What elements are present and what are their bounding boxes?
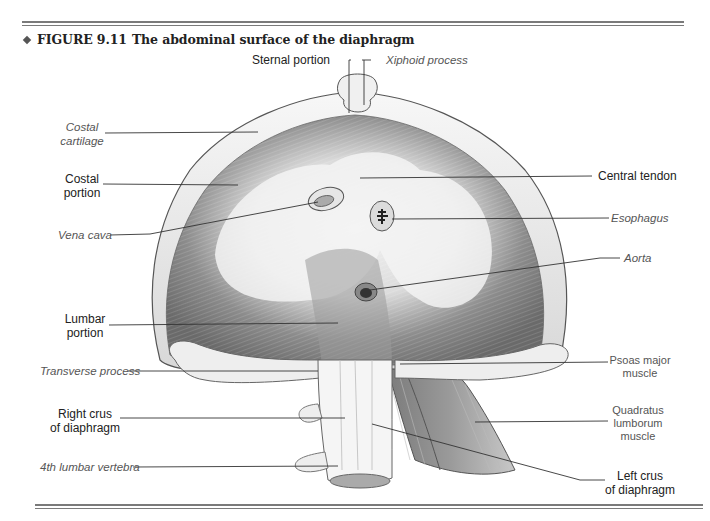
vertebral-body-cut [330, 474, 390, 488]
label-line: cartilage [60, 134, 104, 148]
label-line: portion [62, 326, 108, 340]
esophagus-opening [370, 201, 394, 231]
label-costal-cartilage: Costal cartilage [60, 120, 104, 148]
diaphragm-illustration [0, 0, 710, 521]
label-line: Costal [60, 120, 104, 134]
label-line: Right crus [48, 407, 122, 421]
label-vena-cava: Vena cava [58, 228, 112, 242]
label-costal-portion: Costal portion [60, 172, 104, 200]
vertebra-process-2 [295, 452, 328, 472]
label-sternal-portion: Sternal portion [252, 53, 330, 67]
label-line: muscle [610, 430, 666, 443]
vertebral-column [318, 360, 392, 484]
label-quadratus-lumborum-muscle: Quadratus lumborum muscle [610, 404, 666, 443]
label-esophagus: Esophagus [611, 211, 669, 225]
label-line: Lumbar [62, 312, 108, 326]
label-4th-lumbar-vertebra: 4th lumbar vertebra [40, 460, 140, 474]
label-line: portion [60, 186, 104, 200]
vertebra-process-1 [299, 404, 322, 422]
label-lumbar-portion: Lumbar portion [62, 312, 108, 340]
label-line: lumborum [610, 417, 666, 430]
label-left-crus: Left crus of diaphragm [603, 469, 677, 497]
label-transverse-process: Transverse process [40, 364, 140, 378]
label-line: Left crus [603, 469, 677, 483]
label-right-crus: Right crus of diaphragm [48, 407, 122, 435]
label-line: muscle [608, 367, 672, 380]
aorta-opening [355, 283, 377, 301]
label-line: Psoas major [608, 354, 672, 367]
label-xiphoid-process: Xiphoid process [386, 53, 468, 67]
label-line: of diaphragm [603, 483, 677, 497]
label-line: Quadratus [610, 404, 666, 417]
label-psoas-major-muscle: Psoas major muscle [608, 354, 672, 380]
label-central-tendon: Central tendon [598, 169, 677, 183]
label-line: of diaphragm [48, 421, 122, 435]
label-aorta: Aorta [624, 251, 652, 265]
label-line: Costal [60, 172, 104, 186]
